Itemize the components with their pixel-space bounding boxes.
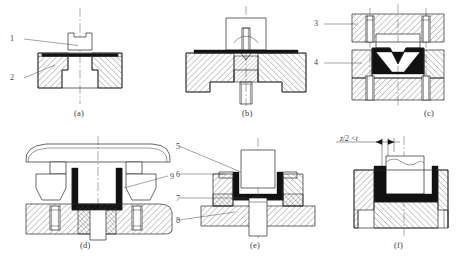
die-left-lower-e bbox=[213, 194, 233, 206]
callout-9: 9 bbox=[170, 172, 174, 181]
top-cover-inner-d bbox=[28, 148, 167, 162]
panel-e-drawing bbox=[185, 132, 335, 242]
die-center-b bbox=[234, 56, 258, 82]
knockout-rod-d bbox=[90, 210, 106, 240]
figure-bottom-caption bbox=[152, 265, 154, 271]
panel-d-drawing bbox=[20, 132, 180, 242]
die-right-lower-e bbox=[283, 194, 303, 206]
panel-b bbox=[160, 0, 310, 110]
die-right-a bbox=[92, 53, 122, 88]
panel-b-drawing bbox=[160, 0, 310, 110]
caption-f: (f) bbox=[394, 240, 403, 250]
ring-right-d bbox=[126, 174, 156, 200]
die-left-b bbox=[186, 53, 234, 92]
holder-right-d bbox=[126, 162, 142, 174]
callout-3: 3 bbox=[314, 19, 318, 28]
caption-a: (a) bbox=[74, 108, 84, 118]
panel-e bbox=[185, 132, 335, 242]
callout-6: 6 bbox=[176, 170, 180, 179]
die-right-b bbox=[258, 53, 306, 92]
callout-8: 8 bbox=[176, 216, 180, 225]
clearance-annotation: z/2 <t bbox=[340, 134, 358, 143]
figure-container: 1 2 (a) (b) bbox=[0, 0, 457, 271]
dim-arrow-left-f bbox=[376, 140, 382, 145]
callout-5: 5 bbox=[176, 142, 180, 151]
panel-f bbox=[330, 132, 457, 242]
panel-f-drawing bbox=[330, 132, 457, 242]
punch-holder-b bbox=[226, 18, 266, 50]
lower-die-right-c bbox=[424, 50, 444, 78]
punch-e bbox=[241, 150, 275, 188]
caption-d: (d) bbox=[80, 240, 91, 250]
panel-a bbox=[0, 0, 152, 110]
panel-d bbox=[20, 132, 180, 242]
die-left-f bbox=[354, 170, 374, 228]
callout-2: 2 bbox=[10, 73, 14, 82]
die-right-f bbox=[438, 170, 448, 228]
callout-7: 7 bbox=[176, 194, 180, 203]
panel-a-drawing bbox=[0, 0, 152, 110]
leader-5-e bbox=[179, 146, 241, 172]
panel-c bbox=[310, 0, 457, 110]
caption-e: (e) bbox=[250, 240, 260, 250]
ejector-pin-e bbox=[249, 198, 267, 236]
dim-arrow-right-f bbox=[388, 140, 394, 145]
callout-4: 4 bbox=[314, 58, 318, 67]
die-center-f bbox=[374, 202, 438, 228]
holder-left-d bbox=[50, 162, 66, 174]
callout-1: 1 bbox=[10, 34, 14, 43]
caption-c: (c) bbox=[424, 108, 434, 118]
caption-b: (b) bbox=[242, 108, 253, 118]
ring-left-d bbox=[36, 174, 66, 200]
panel-c-drawing bbox=[310, 0, 457, 110]
lower-die-left-c bbox=[352, 50, 372, 78]
